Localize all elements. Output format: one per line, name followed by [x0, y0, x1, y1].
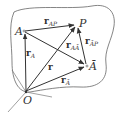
vector-diagram: O A P Ā r rA rĀ rAP rAĀ rĀP [0, 0, 122, 122]
label-r-Abar-sub: Ā [65, 79, 71, 86]
axis-line-3 [12, 70, 26, 92]
label-O: O [23, 94, 32, 107]
label-r-A-sub: A [30, 52, 36, 59]
label-r-AAbar-sub: AĀ [70, 44, 80, 51]
label-r-AP-sub: AP [48, 20, 58, 27]
label-r-A: rA [26, 48, 36, 59]
label-r-Abar: rĀ [61, 75, 71, 86]
label-P: P [78, 17, 87, 30]
label-Abar: Ā [88, 60, 97, 73]
label-r-AbarP-sub: ĀP [89, 40, 99, 47]
label-r: r [48, 62, 53, 72]
label-A: A [14, 25, 23, 38]
label-r-AbarP: rĀP [85, 36, 99, 47]
point-O [25, 91, 27, 93]
label-r-AP: rAP [44, 16, 58, 27]
label-r-AAbar: rAĀ [66, 40, 80, 51]
vector-r-A [25, 34, 26, 91]
point-A [23, 30, 25, 32]
point-Abar [86, 65, 88, 67]
